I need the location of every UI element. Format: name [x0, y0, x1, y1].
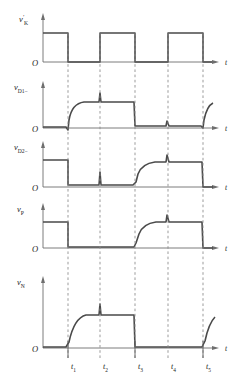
panel5-y-axis-arrowhead — [41, 276, 45, 283]
panel4-label: vP — [17, 204, 24, 216]
panel-vN: vN O t — [17, 276, 228, 354]
panel1-t-axis-arrowhead — [212, 60, 219, 64]
panel4-label-sub: P — [21, 210, 24, 216]
panel1-y-axis-arrowhead — [41, 13, 45, 20]
time-label-t3: t3 — [138, 362, 143, 373]
panel2-t-axis-arrowhead — [212, 126, 219, 130]
dashed-guides — [68, 33, 203, 358]
panel3-y-axis-arrowhead — [41, 141, 45, 148]
panel3-t-label: t — [225, 183, 228, 192]
panel1-trace — [43, 33, 212, 62]
panel4-t-label: t — [225, 244, 228, 253]
panel2-t-label: t — [225, 124, 228, 133]
panel3-label: vD2− — [14, 142, 28, 154]
panel4-t-axis-arrowhead — [212, 246, 219, 250]
panel1-origin-label: O — [32, 58, 38, 68]
time-marker-labels: t1 t2 t3 t4 t5 — [71, 362, 211, 373]
panel2-y-axis-arrowhead — [41, 81, 45, 88]
panel1-t-label: t — [225, 58, 228, 67]
waveform-figure: v′K O t vD1− O t vD2− O t vP O t — [0, 0, 243, 380]
panel-vD2-minus: vD2− O t — [14, 141, 228, 193]
time-label-t4: t4 — [171, 362, 176, 373]
panel5-trace — [43, 304, 215, 347]
panel-vD1-minus: vD1− O t — [14, 81, 228, 134]
waveform-svg: v′K O t vD1− O t vD2− O t vP O t — [0, 0, 243, 380]
panel1-label: v′K — [19, 14, 28, 26]
time-label-t2: t2 — [103, 362, 108, 373]
time-label-t1: t1 — [71, 362, 76, 373]
panel5-t-axis-arrowhead — [212, 346, 219, 350]
panel-vP: vP O t — [17, 203, 228, 254]
panel2-label: vD1− — [14, 82, 28, 94]
panel2-label-sub: D1− — [18, 88, 28, 94]
panel2-trace — [43, 93, 213, 130]
time-label-t5: t5 — [206, 362, 211, 373]
panel3-t-axis-arrowhead — [212, 185, 219, 189]
panel3-trace — [43, 155, 213, 187]
panel4-y-axis-arrowhead — [41, 203, 45, 210]
panel4-trace — [43, 215, 213, 248]
panel3-origin-label: O — [32, 183, 38, 193]
panel5-t-label: t — [225, 344, 228, 353]
panel3-label-sub: D2− — [18, 148, 28, 154]
panel-vK-prime: v′K O t — [19, 13, 228, 68]
panel5-origin-label: O — [32, 344, 38, 354]
panel1-label-sub: K — [24, 20, 28, 26]
panel5-label-sub: N — [21, 283, 25, 289]
panel5-label: vN — [17, 277, 25, 289]
panel2-origin-label: O — [32, 124, 38, 134]
panel4-origin-label: O — [32, 244, 38, 254]
